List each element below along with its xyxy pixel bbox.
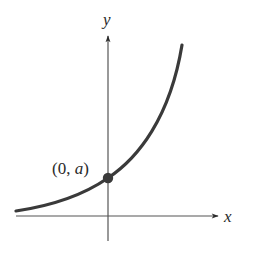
y-intercept-point (103, 173, 113, 183)
exponential-curve (16, 45, 182, 211)
y-axis-label: y (101, 10, 111, 29)
graph-svg: y x (0, a) (0, 0, 257, 255)
point-label-close: ) (83, 159, 89, 178)
point-label-open: (0, (52, 159, 75, 178)
point-label-var: a (75, 159, 84, 178)
point-label: (0, a) (52, 159, 89, 178)
exponential-graph: y x (0, a) (0, 0, 257, 255)
x-axis-label: x (223, 207, 232, 226)
